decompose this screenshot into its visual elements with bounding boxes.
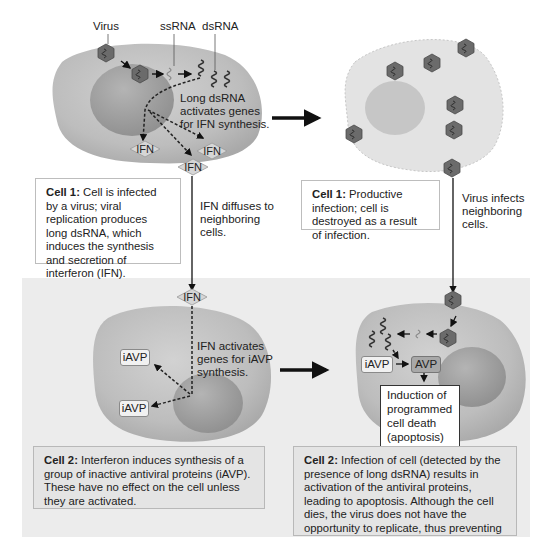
iavp-box: iAVP (119, 400, 149, 417)
caption-cell2-iavp: Cell 2: Interferon induces synthesis of … (33, 446, 265, 509)
virus-icon (387, 62, 403, 80)
ifn-label: IFN (133, 143, 157, 156)
iavp-box: iAVP (361, 356, 393, 373)
iavp-box: iAVP (120, 349, 150, 366)
ifn-diffuses-note: IFN diffuses to neighboring cells. (200, 200, 274, 239)
avp-box: AVP (411, 356, 441, 373)
dsrna-label: dsRNA (202, 20, 238, 33)
virus-icon (440, 329, 456, 347)
virus-icon (98, 44, 114, 62)
nucleus (365, 81, 425, 135)
ifn-label: IFN (181, 161, 205, 174)
virus-icon (424, 54, 440, 72)
ssrna-label: ssRNA (160, 20, 196, 33)
ifn-activates-note: IFN activates genes for iAVP synthesis. (197, 340, 273, 379)
caption-cell2-apoptosis: Cell 2: Infection of cell (detected by t… (293, 446, 517, 536)
long-dsrna-note: Long dsRNA activates genes for IFN synth… (180, 92, 269, 131)
virus-icon (446, 121, 462, 139)
virus-icon (444, 159, 460, 177)
virus-label: Virus (93, 20, 119, 33)
apoptosis-box: Induction of programmed cell death (apop… (380, 385, 460, 447)
nucleus (173, 373, 243, 433)
virus-icon (458, 39, 474, 57)
virus-icon (132, 65, 148, 83)
caption-cell1-infected: Cell 1: Cell is infected by a virus; vir… (35, 178, 181, 264)
ifn-label: IFN (200, 145, 224, 158)
virus-infects-note: Virus infects neighboring cells. (462, 192, 524, 231)
ifn-label: IFN (180, 291, 204, 304)
virus-icon (445, 291, 461, 309)
caption-cell1-destroyed: Cell 1: Productive infection; cell is de… (301, 180, 440, 230)
virus-icon (447, 96, 463, 114)
virus-icon (346, 125, 362, 143)
